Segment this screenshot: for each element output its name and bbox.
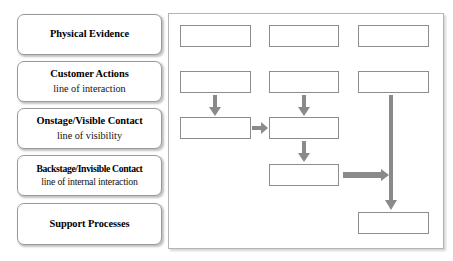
arrow-down-icon: [298, 141, 310, 162]
legend-row-title: Support Processes: [49, 218, 129, 230]
legend-row-title: Physical Evidence: [50, 28, 129, 40]
process-node[interactable]: [358, 212, 429, 234]
blueprint-process-panel: [168, 13, 444, 249]
process-node[interactable]: [269, 71, 339, 93]
legend-row-divider-label: line of interaction: [53, 83, 125, 95]
legend-row-title: Customer Actions: [50, 68, 128, 80]
legend-row-physical-evidence: Physical Evidence: [17, 14, 162, 55]
legend-row-title: Backstage/Invisible Contact: [37, 163, 143, 174]
legend-row-divider-label: line of internal interaction: [41, 176, 137, 188]
arrow-right-icon: [343, 169, 389, 181]
process-node[interactable]: [180, 25, 251, 47]
arrow-down-icon: [298, 95, 310, 116]
process-node[interactable]: [358, 71, 429, 93]
process-node[interactable]: [269, 25, 339, 47]
legend-row-divider-label: line of visibility: [57, 130, 122, 142]
service-blueprint-diagram: Physical Evidence Customer Actions line …: [0, 0, 453, 261]
process-node[interactable]: [269, 164, 339, 186]
process-node[interactable]: [180, 117, 251, 139]
process-node[interactable]: [358, 25, 429, 47]
arrow-down-icon: [385, 95, 397, 210]
legend-row-title: Onstage/Visible Contact: [36, 115, 142, 127]
legend-row-backstage-invisible-contact: Backstage/Invisible Contact line of inte…: [17, 155, 162, 196]
legend-row-onstage-visible-contact: Onstage/Visible Contact line of visibili…: [17, 108, 162, 149]
legend-row-customer-actions: Customer Actions line of interaction: [17, 61, 162, 102]
arrow-down-icon: [209, 95, 221, 116]
process-node[interactable]: [269, 117, 339, 139]
blueprint-legend-column: Physical Evidence Customer Actions line …: [0, 0, 168, 261]
arrow-right-icon: [252, 122, 268, 134]
process-node[interactable]: [180, 71, 251, 93]
legend-row-support-processes: Support Processes: [17, 203, 162, 245]
